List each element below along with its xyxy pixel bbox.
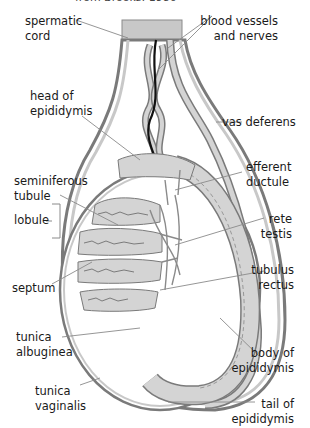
label-head-of-epididymis: head of epididymis <box>30 89 93 119</box>
label-tunica-albuginea: tunica albuginea <box>16 330 73 360</box>
label-lobule: lobule <box>14 213 49 228</box>
label-blood-vessels-and-nerves: blood vessels and nerves <box>200 14 278 44</box>
label-tail-of-epididymis: tail of epididymis <box>226 397 294 427</box>
label-tubulus-rectus: tubulus rectus <box>250 263 294 293</box>
label-vas-deferens: vas deferens <box>222 115 296 130</box>
label-spermatic-cord: spermatic cord <box>25 14 82 44</box>
label-seminiferous-tubule: seminiferous tubule <box>14 174 88 204</box>
label-septum: septum <box>12 281 55 296</box>
label-body-of-epididymis: body of epididymis <box>226 346 294 376</box>
label-rete-testis: rete testis <box>252 212 292 242</box>
label-tunica-vaginalis: tunica vaginalis <box>35 384 86 414</box>
label-efferent-ductule: efferent ductule <box>246 160 291 190</box>
